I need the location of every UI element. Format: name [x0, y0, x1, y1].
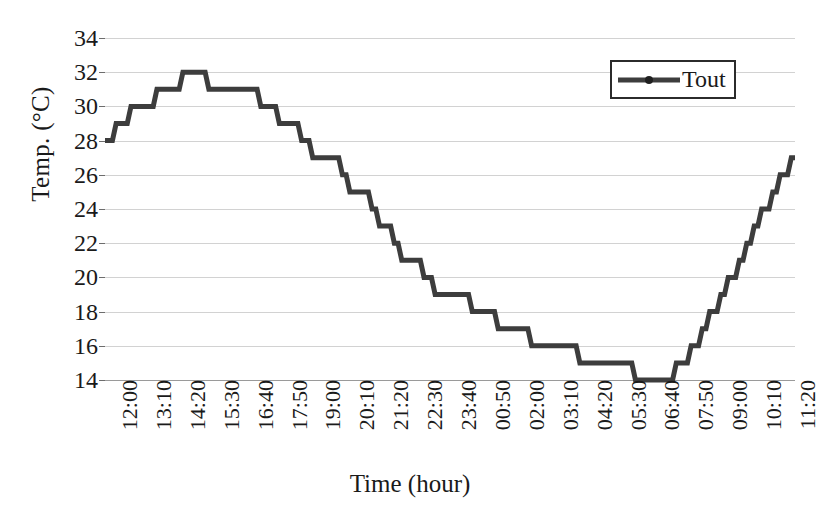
- y-tick-20: 20: [38, 265, 98, 289]
- chart-legend: Tout: [610, 60, 736, 99]
- x-tick-0530: 05:30: [628, 380, 650, 472]
- x-tick-0420: 04:20: [594, 380, 616, 472]
- y-tick-30: 30: [38, 94, 98, 118]
- x-tick-0050: 00:50: [492, 380, 514, 472]
- x-tick-1200: 12:00: [119, 380, 141, 472]
- x-tick-0900: 09:00: [729, 380, 751, 472]
- x-tick-0200: 02:00: [526, 380, 548, 472]
- y-tick-34: 34: [38, 26, 98, 50]
- y-tick-18: 18: [38, 300, 98, 324]
- legend-line-marker-icon: [618, 71, 680, 89]
- y-tick-24: 24: [38, 197, 98, 221]
- x-tick-0750: 07:50: [695, 380, 717, 472]
- x-tick-1310: 13:10: [153, 380, 175, 472]
- x-tick-1750: 17:50: [289, 380, 311, 472]
- x-tick-1010: 10:10: [763, 380, 785, 472]
- x-tick-0640: 06:40: [661, 380, 683, 472]
- x-axis-tick-labels: 12:0013:1014:2015:3016:4017:5019:0020:10…: [105, 386, 795, 474]
- x-tick-2010: 20:10: [356, 380, 378, 472]
- x-tick-1420: 14:20: [187, 380, 209, 472]
- y-tick-28: 28: [38, 129, 98, 153]
- x-tick-1530: 15:30: [221, 380, 243, 472]
- y-tick-14: 14: [38, 368, 98, 392]
- x-axis-title: Time (hour): [0, 470, 820, 498]
- y-tick-26: 26: [38, 163, 98, 187]
- legend-label-tout: Tout: [682, 66, 726, 93]
- temperature-line-chart: Temp. (°C) 3432302826242220181614 12:001…: [0, 0, 820, 518]
- x-tick-2230: 22:30: [424, 380, 446, 472]
- x-tick-0310: 03:10: [560, 380, 582, 472]
- y-tick-32: 32: [38, 60, 98, 84]
- x-tick-1120: 11:20: [797, 380, 819, 472]
- x-tick-2120: 21:20: [390, 380, 412, 472]
- x-tick-1900: 19:00: [322, 380, 344, 472]
- x-tick-1640: 16:40: [255, 380, 277, 472]
- y-axis-tick-labels: 3432302826242220181614: [36, 38, 98, 380]
- x-tick-2340: 23:40: [458, 380, 480, 472]
- y-tick-22: 22: [38, 231, 98, 255]
- y-tick-16: 16: [38, 334, 98, 358]
